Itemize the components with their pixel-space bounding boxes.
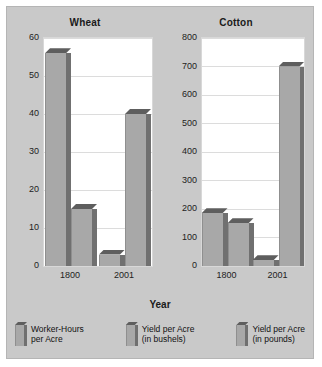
legend-swatch-icon bbox=[15, 322, 27, 346]
bar bbox=[125, 109, 151, 266]
y-axis-tick-label: 0 bbox=[163, 260, 197, 270]
chart-legend: Worker-Hours per Acre Yield per Acre (in… bbox=[15, 315, 305, 353]
bar bbox=[253, 255, 279, 266]
bar bbox=[45, 48, 71, 266]
y-axis-tick-label: 200 bbox=[163, 203, 197, 213]
y-axis-tick-label: 20 bbox=[13, 184, 39, 194]
panel-title-cotton: Cotton bbox=[161, 17, 311, 28]
gridline bbox=[44, 38, 152, 39]
y-axis-tick-label: 500 bbox=[163, 118, 197, 128]
y-axis-tick-label: 100 bbox=[163, 232, 197, 242]
chart-panel-wheat: Wheat 010203040506018002001 bbox=[11, 15, 159, 295]
y-axis-tick-label: 30 bbox=[13, 146, 39, 156]
x-axis-tick-label: 2001 bbox=[97, 270, 151, 280]
y-axis-tick-label: 800 bbox=[163, 32, 197, 42]
plot-area-cotton bbox=[201, 37, 305, 267]
legend-item-yield-pounds: Yield per Acre (in pounds) bbox=[236, 322, 305, 346]
y-axis-tick-label: 400 bbox=[163, 146, 197, 156]
x-axis-label: Year bbox=[7, 299, 313, 310]
gridline bbox=[202, 38, 304, 39]
legend-label: Yield per Acre (in pounds) bbox=[252, 324, 305, 345]
y-axis-tick-label: 600 bbox=[163, 89, 197, 99]
y-axis-tick-label: 300 bbox=[163, 175, 197, 185]
bar bbox=[71, 204, 97, 266]
y-axis-tick-label: 0 bbox=[13, 260, 39, 270]
panel-title-wheat: Wheat bbox=[11, 17, 159, 28]
y-axis-tick-label: 10 bbox=[13, 222, 39, 232]
x-axis-tick-label: 2001 bbox=[252, 270, 303, 280]
y-axis-tick-label: 50 bbox=[13, 70, 39, 80]
legend-swatch-icon bbox=[236, 322, 248, 346]
y-axis-tick-label: 40 bbox=[13, 108, 39, 118]
x-axis-tick-label: 1800 bbox=[201, 270, 252, 280]
legend-label: Yield per Acre (in bushels) bbox=[142, 324, 195, 345]
y-axis-tick-label: 60 bbox=[13, 32, 39, 42]
legend-item-worker-hours: Worker-Hours per Acre bbox=[15, 322, 84, 346]
legend-item-yield-bushels: Yield per Acre (in bushels) bbox=[126, 322, 195, 346]
y-axis-tick-label: 700 bbox=[163, 61, 197, 71]
legend-label: Worker-Hours per Acre bbox=[31, 324, 84, 345]
plot-area-wheat bbox=[43, 37, 153, 267]
chart-panel-cotton: Cotton 010020030040050060070080018002001 bbox=[161, 15, 311, 295]
legend-swatch-icon bbox=[126, 322, 138, 346]
bar bbox=[99, 250, 125, 266]
bar bbox=[228, 218, 254, 266]
x-axis-tick-label: 1800 bbox=[43, 270, 97, 280]
bar bbox=[202, 208, 228, 266]
bar bbox=[279, 62, 305, 267]
chart-figure: Wheat 010203040506018002001 Cotton 01002… bbox=[6, 6, 314, 359]
